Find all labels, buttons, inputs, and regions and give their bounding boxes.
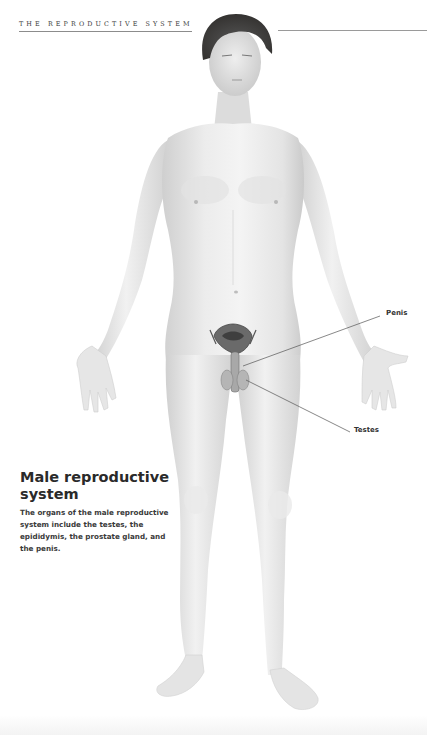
header-rule-left xyxy=(19,31,192,32)
caption-title: Male reproductive system xyxy=(20,469,210,503)
left-arm xyxy=(92,140,168,362)
caption-body: The organs of the male reproductive syst… xyxy=(20,507,180,555)
header-rule-right xyxy=(278,30,427,31)
right-hand xyxy=(362,346,408,410)
right-leg xyxy=(236,355,300,675)
right-foot xyxy=(270,668,318,710)
right-arm xyxy=(296,140,376,362)
running-head: THE REPRODUCTIVE SYSTEM xyxy=(19,20,193,28)
left-foot xyxy=(157,655,204,696)
figure-caption: Male reproductive system The organs of t… xyxy=(20,469,210,555)
callout-label-penis: Penis xyxy=(386,309,407,317)
left-hand xyxy=(77,346,116,412)
anatomical-figure xyxy=(0,0,427,735)
callout-label-testes: Testes xyxy=(354,426,379,434)
